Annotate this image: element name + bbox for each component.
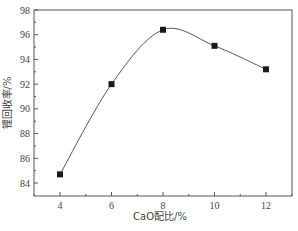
data-point-marker bbox=[263, 66, 269, 72]
y-tick-label: 98 bbox=[20, 5, 30, 16]
x-tick-label: 4 bbox=[58, 200, 63, 211]
x-tick-label: 10 bbox=[210, 200, 220, 211]
data-line bbox=[60, 28, 266, 174]
data-point-marker bbox=[160, 27, 166, 33]
data-markers bbox=[57, 27, 269, 178]
y-tick-label: 86 bbox=[20, 153, 30, 164]
x-tick-label: 12 bbox=[261, 200, 271, 211]
y-tick-label: 88 bbox=[20, 128, 30, 139]
y-tick-label: 94 bbox=[20, 54, 30, 65]
x-axis-title: CaO配比/% bbox=[133, 211, 187, 222]
y-axis: 8486889092949698 bbox=[20, 5, 38, 189]
y-axis-title: 锂回收率/% bbox=[1, 77, 13, 130]
plot-frame bbox=[34, 10, 292, 196]
chart: 8486889092949698 4681012 CaO配比/% 锂回收率/% bbox=[0, 0, 298, 231]
data-point-marker bbox=[57, 171, 63, 177]
data-point-marker bbox=[109, 81, 115, 87]
x-tick-label: 8 bbox=[161, 200, 166, 211]
y-tick-label: 90 bbox=[20, 103, 30, 114]
x-tick-label: 6 bbox=[109, 200, 114, 211]
data-point-marker bbox=[212, 43, 218, 49]
x-axis: 4681012 bbox=[34, 192, 292, 211]
y-tick-label: 92 bbox=[20, 79, 30, 90]
y-tick-label: 84 bbox=[20, 178, 30, 189]
y-tick-label: 96 bbox=[20, 29, 30, 40]
